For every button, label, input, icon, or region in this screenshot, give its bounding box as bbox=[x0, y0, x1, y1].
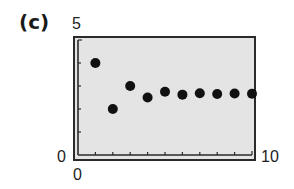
data-points bbox=[90, 58, 257, 114]
data-point bbox=[125, 81, 135, 91]
data-point bbox=[230, 89, 240, 99]
data-point bbox=[108, 104, 118, 114]
data-point bbox=[212, 89, 222, 99]
data-point bbox=[90, 58, 100, 68]
data-point bbox=[143, 93, 153, 103]
data-point bbox=[247, 89, 257, 99]
scatter-plot bbox=[0, 0, 294, 189]
data-point bbox=[160, 87, 170, 97]
data-point bbox=[195, 88, 205, 98]
axes bbox=[78, 40, 252, 155]
data-point bbox=[177, 90, 187, 100]
